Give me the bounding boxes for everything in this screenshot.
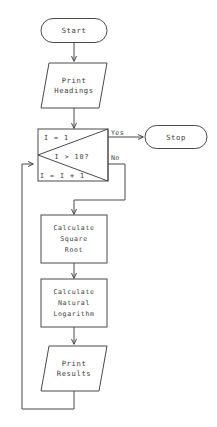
- node-print-results[interactable]: Print Results: [41, 346, 107, 391]
- decision-condition-label: I > 10?: [55, 153, 90, 161]
- print-headings-label-line1: Print: [62, 76, 87, 85]
- calc-log-label-line3: Logarithm: [53, 310, 94, 318]
- calc-sqrt-label-line2: Square: [60, 235, 87, 243]
- node-calculate-square-root[interactable]: Calculate Square Root: [41, 215, 107, 263]
- calc-sqrt-label-line1: Calculate: [53, 224, 94, 232]
- node-stop[interactable]: Stop: [145, 126, 207, 149]
- print-headings-label-line2: Headings: [54, 86, 93, 95]
- node-start[interactable]: Start: [41, 19, 107, 43]
- decision-increment-label: I = I + 1: [40, 172, 85, 180]
- decision-init-label: I = 1: [44, 134, 69, 142]
- calc-log-label-line2: Natural: [58, 299, 90, 307]
- node-print-headings[interactable]: Print Headings: [41, 63, 107, 108]
- print-results-label-line2: Results: [57, 369, 92, 378]
- node-decision-loop[interactable]: I = 1 I > 10? I = I + 1: [38, 129, 108, 181]
- flowchart-canvas: Start Print Headings I = 1 I > 10? I = I…: [0, 0, 217, 427]
- edge-label-no: No: [111, 154, 120, 162]
- print-results-label-line1: Print: [62, 359, 87, 368]
- start-label: Start: [62, 26, 87, 35]
- calc-sqrt-label-line3: Root: [65, 246, 83, 254]
- node-calculate-natural-logarithm[interactable]: Calculate Natural Logarithm: [41, 279, 107, 327]
- edge-label-yes: Yes: [111, 129, 124, 137]
- stop-label: Stop: [166, 133, 186, 142]
- calc-log-label-line1: Calculate: [53, 288, 94, 296]
- flowchart-svg: Start Print Headings I = 1 I > 10? I = I…: [0, 0, 217, 427]
